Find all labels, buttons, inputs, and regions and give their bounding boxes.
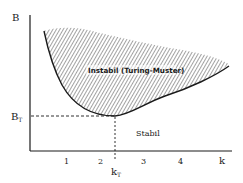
x-tick-2: 2 <box>98 157 103 166</box>
threshold-k-label: kT <box>111 166 121 178</box>
x-tick-1: 1 <box>64 157 69 166</box>
turing-instability-diagram: B k 1 2 3 4 BT kT Instabil (Turing-Muste… <box>0 0 243 183</box>
unstable-region-label: Instabil (Turing-Muster) <box>88 66 184 75</box>
x-tick-3: 3 <box>141 157 146 166</box>
x-tick-4: 4 <box>178 157 183 166</box>
threshold-b-label: BT <box>11 111 22 123</box>
y-axis-label: B <box>12 12 19 23</box>
x-axis-label: k <box>219 155 226 166</box>
stable-region-label: Stabil <box>136 129 160 138</box>
